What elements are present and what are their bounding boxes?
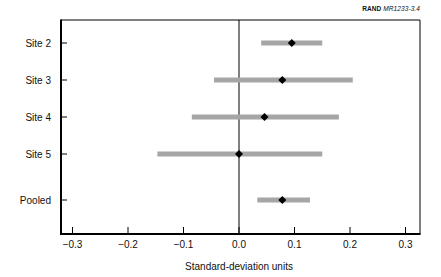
estimate-diamond-marker <box>278 196 286 204</box>
interval-bars <box>157 39 352 204</box>
x-tick-label: 0.0 <box>232 239 246 250</box>
y-axis: Site 2Site 3Site 4Site 5Pooled <box>20 38 67 206</box>
forest-plot: Site 2Site 3Site 4Site 5Pooled −0.3−0.2−… <box>0 0 441 277</box>
estimate-diamond-marker <box>278 76 286 84</box>
x-tick-label: 0.3 <box>399 239 413 250</box>
x-tick-label: −0.3 <box>63 239 83 250</box>
estimate-diamond-marker <box>261 113 269 121</box>
x-tick-label: −0.1 <box>174 239 194 250</box>
x-axis: −0.3−0.2−0.10.00.10.20.3 <box>63 227 413 250</box>
x-tick-label: 0.1 <box>288 239 302 250</box>
y-tick-label: Site 3 <box>25 75 51 86</box>
estimate-diamond-marker <box>288 39 296 47</box>
x-axis-label: Standard-deviation units <box>185 261 293 272</box>
x-tick-label: 0.2 <box>343 239 357 250</box>
interval-row <box>257 196 310 204</box>
y-tick-label: Site 5 <box>25 149 51 160</box>
y-tick-label: Site 4 <box>25 112 51 123</box>
interval-row <box>192 113 339 121</box>
y-tick-label: Site 2 <box>25 38 51 49</box>
interval-row <box>214 76 353 84</box>
interval-row <box>157 150 322 158</box>
estimate-diamond-marker <box>235 150 243 158</box>
interval-row <box>261 39 322 47</box>
x-tick-label: −0.2 <box>118 239 138 250</box>
plot-frame <box>60 20 421 236</box>
y-tick-label: Pooled <box>20 195 51 206</box>
